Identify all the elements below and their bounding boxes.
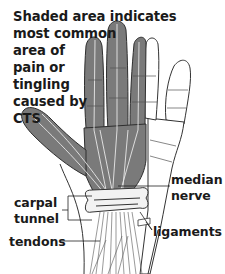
caption-line: area of <box>13 42 177 59</box>
caption-line: pain or <box>13 59 177 76</box>
tendons <box>90 212 142 274</box>
label-line: tunnel <box>14 211 59 227</box>
caption-line: CTS <box>13 110 177 127</box>
ligaments-label: ligaments <box>153 224 222 240</box>
caption-line: tingling <box>13 76 177 93</box>
figure-caption: Shaded area indicates most common area o… <box>13 8 177 127</box>
caption-line: most common <box>13 25 177 42</box>
carpal-tunnel-label: carpal tunnel <box>14 195 59 227</box>
label-line: ligaments <box>153 224 222 240</box>
tendons-label: tendons <box>9 234 66 250</box>
carpal-tunnel-diagram: Shaded area indicates most common area o… <box>0 0 225 274</box>
median-nerve-label: median nerve <box>171 172 222 204</box>
caption-line: caused by <box>13 93 177 110</box>
carpal-ligament <box>85 188 148 213</box>
label-line: nerve <box>171 188 222 204</box>
caption-line: Shaded area indicates <box>13 8 177 25</box>
label-line: median <box>171 172 222 188</box>
label-line: carpal <box>14 195 59 211</box>
label-line: tendons <box>9 234 66 250</box>
